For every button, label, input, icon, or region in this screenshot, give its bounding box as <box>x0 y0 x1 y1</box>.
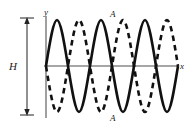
amplitude-label-top: A <box>110 10 116 19</box>
wave-diagram-canvas <box>0 0 195 130</box>
wave-diagram-figure: H y x A A <box>0 0 195 130</box>
amplitude-label-bottom: A <box>110 114 116 123</box>
y-axis-label: y <box>44 8 48 17</box>
height-dimension-label: H <box>9 61 17 72</box>
height-dimension-group <box>20 17 34 116</box>
x-axis-label: x <box>180 62 184 71</box>
